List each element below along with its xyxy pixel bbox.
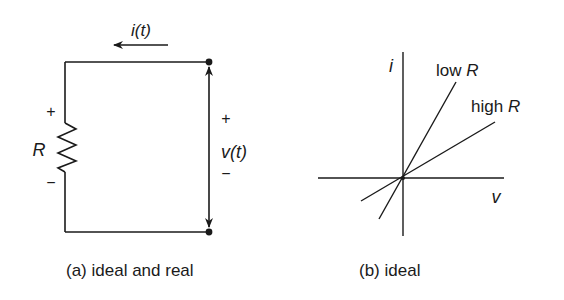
figure-svg: i(t) + R − + v(t) − (a) ideal and real i [0, 0, 564, 300]
top-terminal-dot [206, 59, 213, 66]
resistor-label: R [33, 140, 46, 160]
voltage-minus-sign: − [221, 165, 230, 182]
origin-dot [401, 176, 405, 180]
i-axis-label: i [389, 56, 394, 76]
resistor-minus-sign: − [46, 174, 55, 191]
panel-a-circuit: i(t) + R − + v(t) − (a) ideal and real [33, 21, 248, 280]
resistor-plus-sign: + [46, 103, 55, 120]
high-r-label: high R [471, 97, 520, 116]
v-axis-label: v [492, 187, 502, 207]
panel-b-caption: (b) ideal [359, 261, 420, 280]
panel-b-plot: i v low R high R (b) ideal [318, 52, 520, 280]
low-r-label: low R [436, 61, 479, 80]
voltage-label: v(t) [221, 142, 247, 162]
low-r-line [379, 82, 456, 219]
resistor-icon [58, 123, 76, 172]
current-label: i(t) [131, 21, 151, 40]
voltage-plus-sign: + [221, 110, 230, 127]
figure-canvas: i(t) + R − + v(t) − (a) ideal and real i [0, 0, 564, 300]
panel-a-caption: (a) ideal and real [66, 261, 194, 280]
bottom-terminal-dot [206, 229, 213, 236]
high-r-line [361, 122, 495, 201]
